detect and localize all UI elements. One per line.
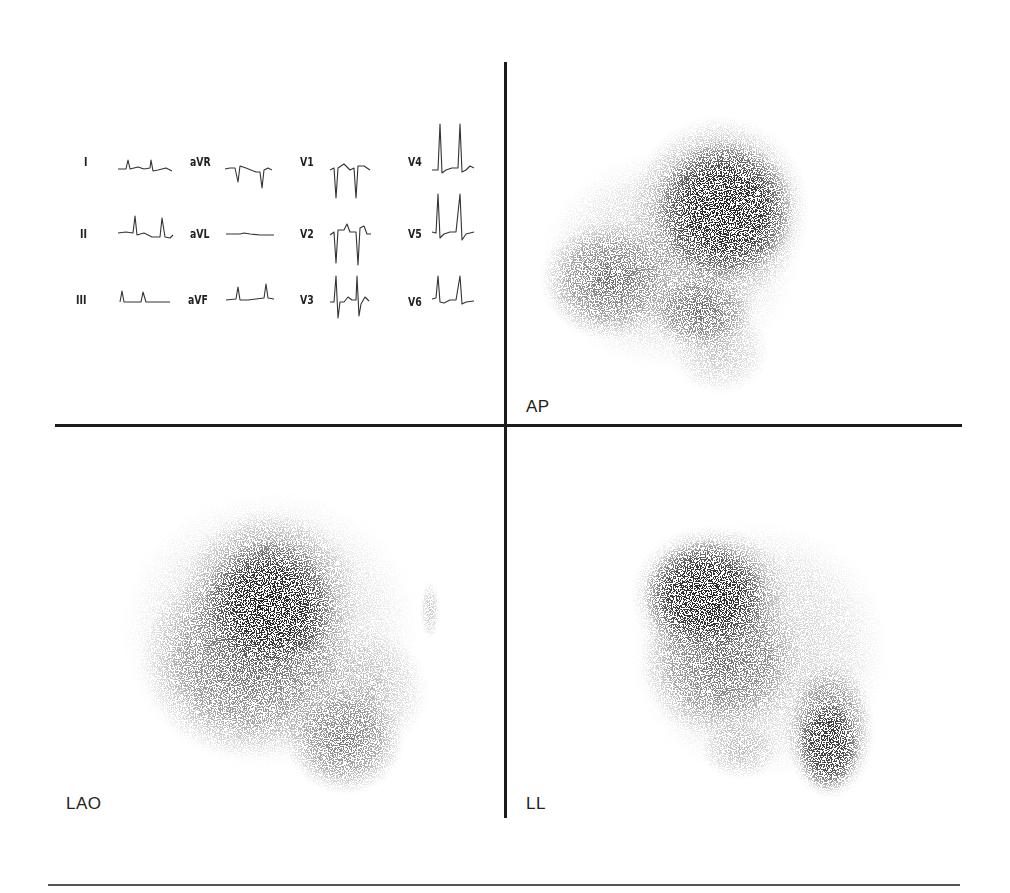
view-label-ll: LL (526, 794, 546, 814)
trace-V1 (330, 164, 370, 198)
trace-V2 (330, 224, 371, 265)
scintigram-ll (610, 480, 910, 800)
ecg-panel: I II III aVR aVL aVF V1 V2 V3 V4 V5 V6 (60, 80, 500, 340)
scintigram-ap (520, 60, 880, 400)
ecg-traces (60, 80, 500, 340)
trace-aVL (226, 233, 274, 235)
trace-V5 (432, 194, 474, 240)
horizontal-divider (55, 424, 962, 427)
trace-V6 (432, 276, 474, 304)
trace-I (118, 160, 172, 171)
trace-aVR (225, 166, 272, 188)
trace-V3 (330, 276, 369, 318)
bottom-rule (48, 884, 960, 886)
trace-II (118, 216, 173, 238)
scintigram-lao (100, 430, 460, 810)
trace-III (120, 291, 170, 302)
view-label-lao: LAO (66, 794, 102, 814)
trace-aVF (226, 284, 274, 300)
vertical-divider (504, 62, 507, 818)
view-label-ap: AP (526, 397, 550, 417)
trace-V4 (432, 124, 474, 173)
